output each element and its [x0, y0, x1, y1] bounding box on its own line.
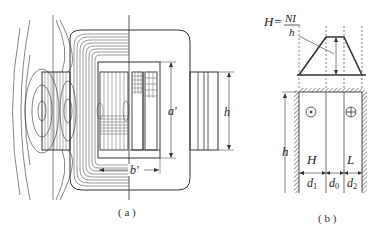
inner-winding-flux	[97, 72, 129, 150]
formula-denominator: h	[289, 26, 295, 38]
label-h-a: h	[224, 105, 230, 119]
winding-grid	[132, 72, 157, 98]
label-a-prime: a'	[168, 104, 177, 118]
label-d1: d1	[307, 176, 317, 191]
label-d0: d0	[329, 176, 339, 191]
left-winding-flux	[45, 72, 66, 150]
core-flux-loops	[74, 34, 129, 186]
formula-numerator: NI	[284, 12, 297, 24]
winding-section-2	[145, 72, 157, 150]
label-d2: d2	[347, 176, 357, 191]
caption-a: ( a )	[118, 206, 136, 219]
label-winding-h: H	[306, 152, 317, 167]
transformer-diagram: a' b' h ( a )	[0, 0, 385, 230]
figure-a	[13, 15, 235, 200]
winding-section-1	[132, 72, 143, 150]
caption-b: ( b )	[318, 212, 337, 225]
h-field-trapezoid	[299, 37, 362, 75]
formula-lhs: H=	[263, 14, 282, 29]
figure-b	[282, 26, 367, 193]
flux-lines-left	[13, 20, 77, 200]
label-b-prime: b'	[130, 163, 139, 177]
label-h-b: h	[282, 144, 289, 159]
label-winding-l: L	[346, 152, 354, 167]
